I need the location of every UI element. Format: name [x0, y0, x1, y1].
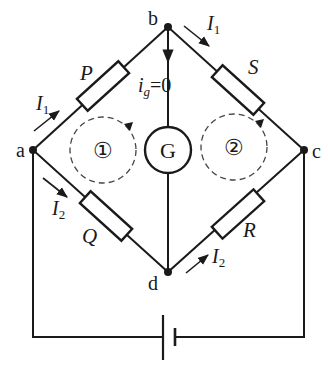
- node-a: [29, 146, 37, 154]
- current-I1-ab-label: I1: [35, 92, 49, 117]
- current-I1-bc-arrow: [184, 26, 209, 46]
- wire-a-battery: [33, 150, 163, 337]
- node-b-label: b: [148, 7, 158, 29]
- resistor-S-label: S: [248, 55, 259, 79]
- loop-1: ①: [70, 117, 136, 183]
- current-I2-dc-label: I2: [211, 245, 225, 270]
- node-c: [300, 146, 308, 154]
- galvanometer-current-label: ig=0: [138, 74, 171, 99]
- loop-1-label: ①: [93, 138, 113, 163]
- resistor-Q-label: Q: [82, 224, 97, 248]
- node-c-label: c: [312, 140, 321, 162]
- current-I2-ad-label: I2: [51, 197, 65, 222]
- loop-2-label: ②: [224, 135, 244, 160]
- node-b: [164, 23, 172, 31]
- current-I2-ad-arrow: [43, 178, 67, 197]
- current-I1-bc-label: I1: [206, 12, 220, 37]
- galvanometer: G: [145, 127, 191, 173]
- resistor-P-label: P: [79, 61, 93, 85]
- current-I2-dc-arrow: [186, 255, 208, 273]
- node-d-label: d: [148, 272, 158, 294]
- wheatstone-bridge-diagram: G ① ② a b c d P S Q R ig=0 I1 I1 I2: [0, 0, 328, 369]
- galvanometer-label: G: [160, 138, 176, 163]
- wire-c-battery: [175, 150, 304, 337]
- node-a-label: a: [16, 139, 25, 161]
- resistor-R: [212, 189, 264, 238]
- node-d: [164, 268, 172, 276]
- resistor-R-label: R: [242, 218, 256, 242]
- loop-2: ②: [201, 114, 267, 180]
